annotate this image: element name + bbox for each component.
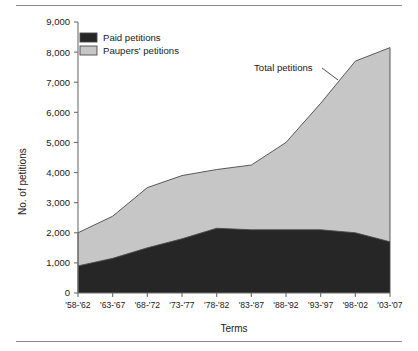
x-tick-label: '88-'92 [273, 300, 298, 310]
x-tick-label: '98-'02 [343, 300, 368, 310]
legend-swatch-paid-petitions [80, 33, 97, 42]
legend-swatch-paupers-petitions [80, 46, 97, 55]
x-tick-label: '68-'72 [135, 300, 160, 310]
x-tick-label: '58-'62 [65, 300, 90, 310]
x-tick-label: '83-'87 [239, 300, 264, 310]
annotation-label-total-petitions: Total petitions [254, 62, 313, 73]
y-tick-label: 3,000 [46, 197, 70, 208]
x-tick-label: '93-'97 [308, 300, 333, 310]
x-tick-label: '78-'82 [204, 300, 229, 310]
y-tick-label: 2,000 [46, 227, 70, 238]
chart-legend: Paid petitions Paupers' petitions [80, 32, 179, 56]
legend-label-paupers-petitions: Paupers' petitions [103, 45, 179, 56]
y-tick-label: 7,000 [46, 77, 70, 88]
annotation-leader-line [322, 68, 338, 80]
y-tick-label: 1,000 [46, 257, 70, 268]
x-tick-label: '63-'67 [100, 300, 125, 310]
x-tick-label: '73-'77 [169, 300, 194, 310]
y-tick-label: 8,000 [46, 47, 70, 58]
y-tick-label: 9,000 [46, 16, 70, 27]
figure-container: 01,0002,0003,0004,0005,0006,0007,0008,00… [0, 0, 418, 351]
area-chart: 01,0002,0003,0004,0005,0006,0007,0008,00… [0, 0, 418, 351]
y-tick-label: 6,000 [46, 107, 70, 118]
annotation-total-petitions: Total petitions [254, 62, 338, 80]
legend-label-paid-petitions: Paid petitions [103, 32, 161, 43]
x-axis-ticks: '58-'62'63-'67'68-'72'73-'77'78-'82'83-'… [65, 293, 402, 310]
chart-series-areas [78, 48, 390, 293]
y-tick-label: 5,000 [46, 137, 70, 148]
y-tick-label: 0 [65, 287, 70, 298]
y-tick-label: 4,000 [46, 167, 70, 178]
y-axis-title: No. of petitions [17, 148, 28, 215]
x-tick-label: '03-'07 [377, 300, 402, 310]
x-axis-title: Terms [220, 323, 247, 334]
y-axis-ticks: 01,0002,0003,0004,0005,0006,0007,0008,00… [46, 16, 78, 298]
